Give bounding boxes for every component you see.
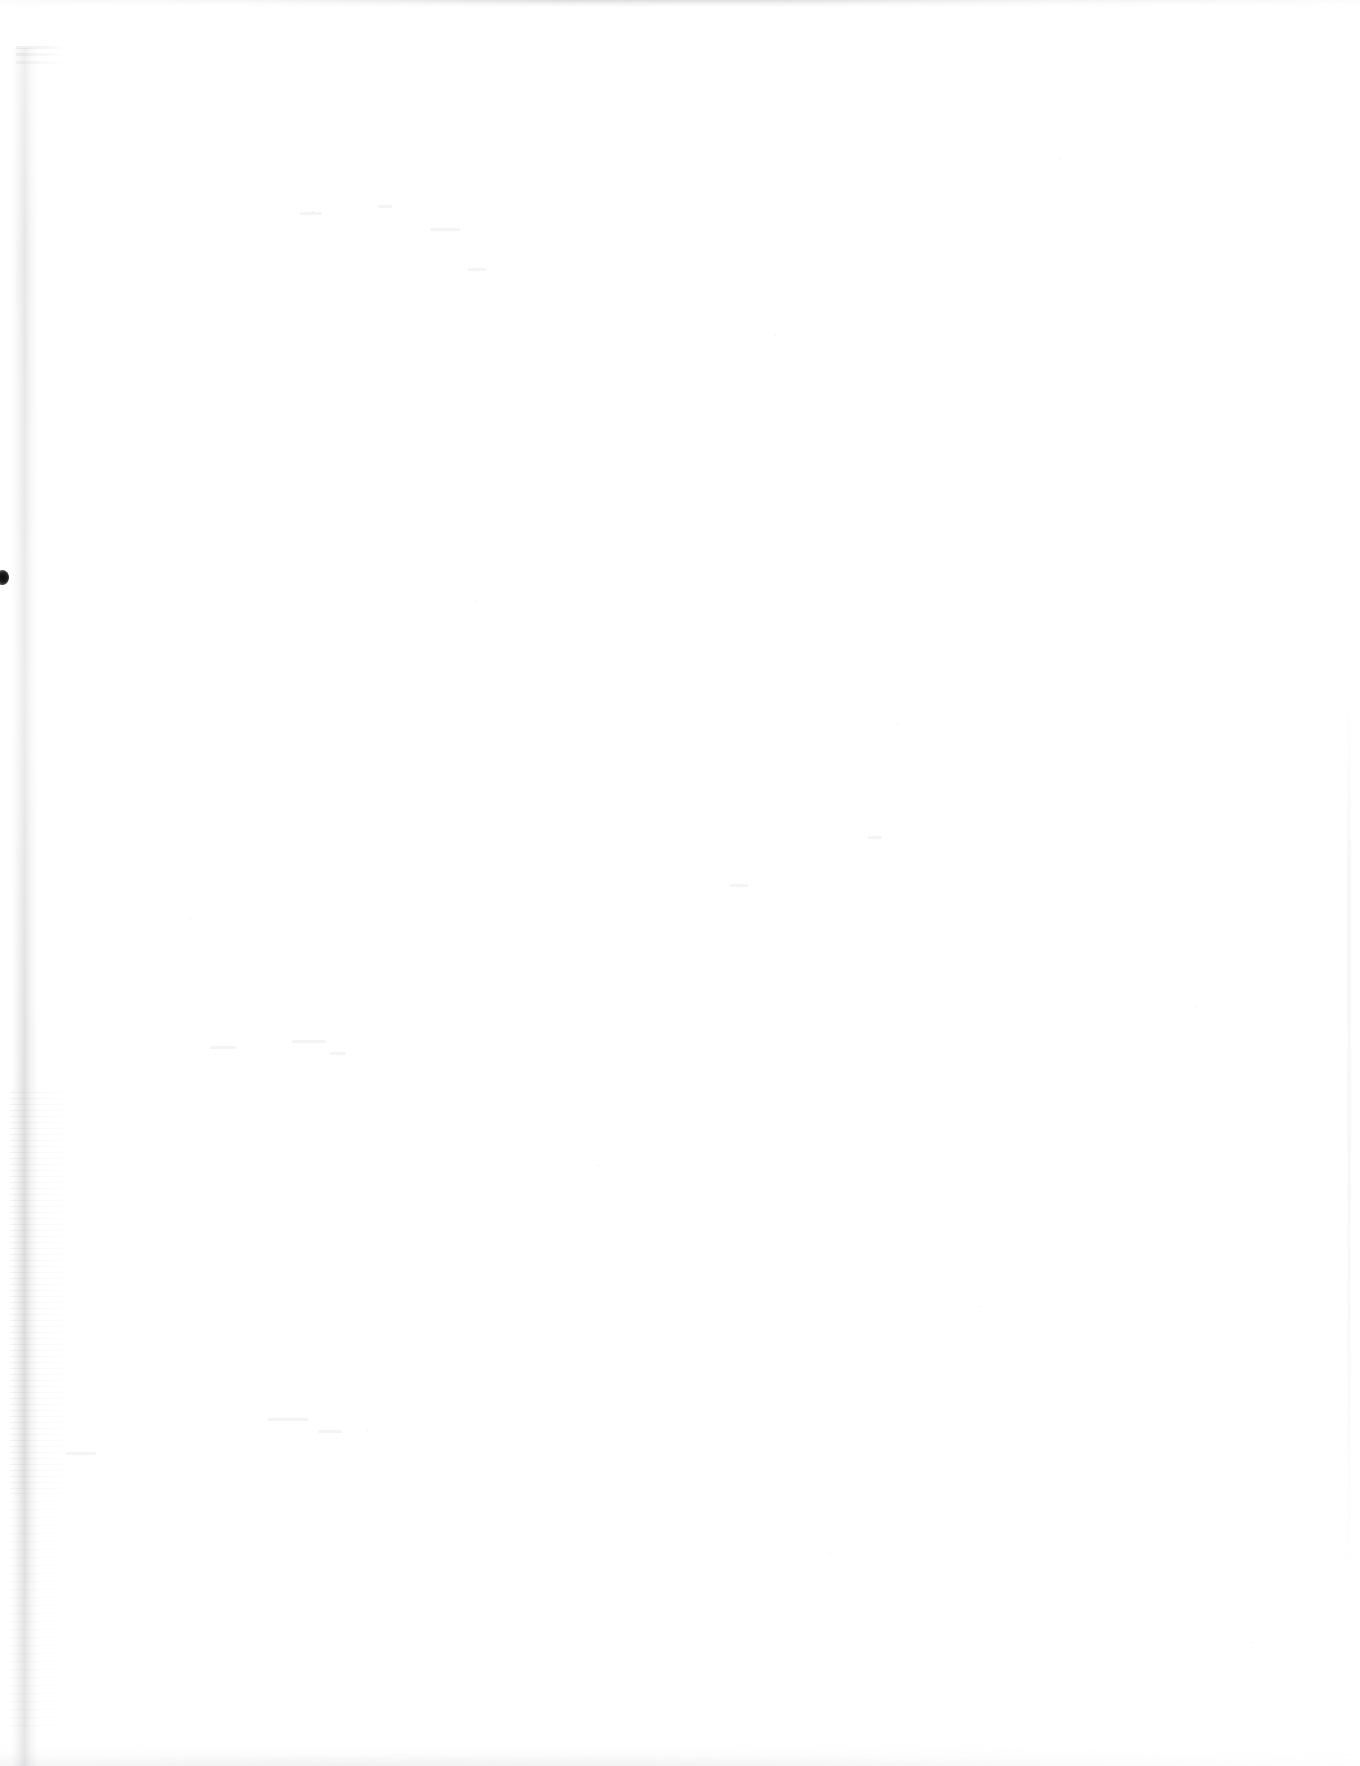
scanned-page [0,0,1360,1766]
page-text [0,0,1360,1766]
